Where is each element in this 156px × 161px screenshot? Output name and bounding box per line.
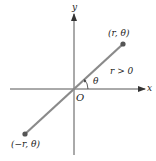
diagram-canvas [0, 0, 156, 161]
polar-diagram: y x O (r, θ) (−r, θ) θ r > 0 [0, 0, 156, 161]
point-neg-r-theta [22, 131, 27, 136]
condition-label: r > 0 [110, 67, 133, 76]
point-label-neg-r-theta: (−r, θ) [11, 140, 40, 149]
origin-label: O [76, 93, 84, 103]
y-axis-label: y [72, 3, 77, 12]
point-label-r-theta: (r, θ) [108, 29, 129, 38]
x-axis-label: x [147, 84, 152, 93]
point-r-theta [120, 41, 125, 46]
angle-theta-label: θ [93, 77, 98, 86]
